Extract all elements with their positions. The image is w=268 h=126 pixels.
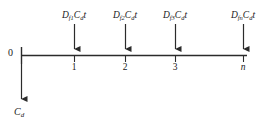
inflow-subscript-3: f3 <box>170 14 175 21</box>
outflow-label: Cd <box>14 107 24 117</box>
inflow-symbol-2: D <box>113 10 120 20</box>
outflow-subscript: d <box>21 111 25 119</box>
inflow-symbol-3: D <box>163 10 170 20</box>
inflow-subscript-2: f2 <box>120 14 125 21</box>
inflow-label-1: Df1Cdt <box>62 11 86 21</box>
tick-label-3: 3 <box>173 63 178 73</box>
inflow-symbol-n: D <box>231 10 238 20</box>
inflow-subscript-n: fn <box>238 14 243 21</box>
tick-label-1: 1 <box>72 63 77 73</box>
tick-label-2: 2 <box>123 63 128 73</box>
inflow-factor-subscript-2: d <box>131 14 134 21</box>
inflow-factor-subscript-n: d <box>249 14 252 21</box>
origin-label: 0 <box>8 48 13 58</box>
inflow-factor-subscript-3: d <box>181 14 184 21</box>
inflow-subscript-1: f1 <box>69 14 74 21</box>
cash-flow-timeline-figure: 0 Df1Cdt Df2Cdt Df3Cdt DfnCdt 1 2 3 n Cd <box>0 0 268 126</box>
inflow-symbol-1: D <box>62 10 69 20</box>
tick-label-n: n <box>241 63 246 73</box>
inflow-label-n: DfnCdt <box>231 11 255 21</box>
inflow-label-2: Df2Cdt <box>113 11 137 21</box>
inflow-label-3: Df3Cdt <box>163 11 187 21</box>
outflow-symbol: C <box>14 106 21 117</box>
inflow-factor-subscript-1: d <box>80 14 83 21</box>
